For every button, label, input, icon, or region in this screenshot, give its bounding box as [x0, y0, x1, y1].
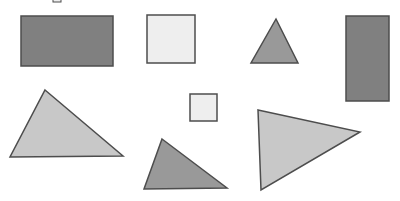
- shapes-svg-root: [0, 0, 400, 201]
- shapes-figure-canvas: [0, 0, 400, 201]
- tall-dark-rectangle: [346, 16, 389, 101]
- medium-gray-triangle-bottom: [144, 139, 227, 189]
- large-light-triangle-right: [258, 110, 360, 190]
- small-light-square-center: [190, 94, 217, 121]
- clipped-square-fragment: [53, 0, 61, 2]
- light-square-top: [147, 15, 195, 63]
- small-gray-triangle-top: [251, 19, 298, 63]
- large-light-triangle-left: [10, 90, 123, 157]
- large-dark-rectangle: [21, 16, 113, 66]
